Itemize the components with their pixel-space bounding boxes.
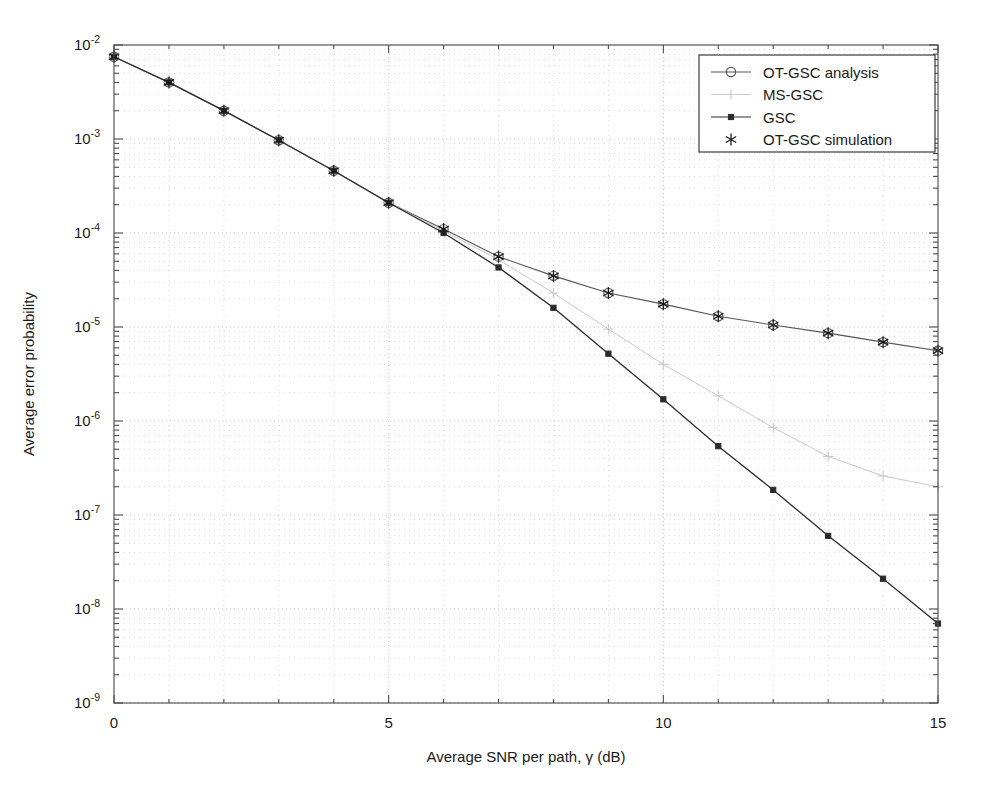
x-tick-label: 10 xyxy=(655,714,672,731)
data-marker-square xyxy=(661,397,666,402)
data-marker-square xyxy=(716,444,721,449)
data-marker-square xyxy=(771,487,776,492)
legend-label: OT-GSC simulation xyxy=(763,131,892,148)
chart-legend[interactable]: OT-GSC analysisMS-GSCGSCOT-GSC simulatio… xyxy=(699,55,935,152)
legend-label: OT-GSC analysis xyxy=(763,64,879,81)
x-tick-label: 15 xyxy=(930,714,947,731)
legend-label: MS-GSC xyxy=(763,86,823,103)
chart-figure: 10-210-310-410-510-610-710-810-9 051015 … xyxy=(0,0,990,790)
x-tick-label: 5 xyxy=(384,714,392,731)
data-marker-square xyxy=(880,576,885,581)
x-axis-title: Average SNR per path, γ (dB) xyxy=(427,748,626,765)
x-tick-label: 0 xyxy=(110,714,118,731)
data-marker-square xyxy=(496,265,501,270)
data-marker-square xyxy=(728,114,733,119)
legend-label: GSC xyxy=(763,109,796,126)
data-marker-square xyxy=(826,533,831,538)
y-axis-title: Average error probability xyxy=(20,292,37,456)
data-marker-square xyxy=(606,351,611,356)
error-probability-log-plot: 10-210-310-410-510-610-710-810-9 051015 … xyxy=(0,0,990,790)
data-marker-square xyxy=(551,305,556,310)
